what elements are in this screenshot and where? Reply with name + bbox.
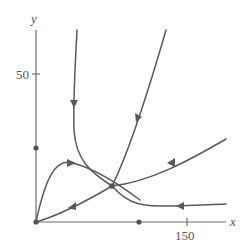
arrow-down-icon (70, 100, 78, 108)
x-axis-label: x (229, 214, 236, 229)
phase-portrait-diagram: y x 50 150 (0, 0, 247, 247)
trajectory-vertical-separatrix (74, 30, 112, 186)
x-tick-label: 150 (175, 228, 195, 243)
equilibrium-saddle (109, 183, 115, 189)
arrow-left-icon (167, 158, 175, 167)
trajectory-lower-right (112, 186, 226, 206)
trajectory-hump (36, 162, 140, 222)
y-axis-label: y (29, 11, 37, 26)
arrow-left-icon-lower (176, 202, 184, 210)
arrow-right-icon (67, 159, 76, 167)
trajectory-upper-right (112, 30, 166, 186)
equilibrium-origin (33, 219, 38, 224)
y-tick-label: 50 (16, 67, 29, 82)
equilibrium-y-axis (33, 145, 38, 150)
equilibrium-x-axis (136, 219, 141, 224)
